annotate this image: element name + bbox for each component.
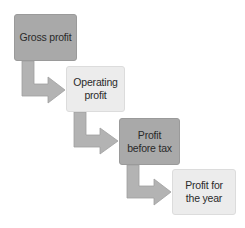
step-profit-for-the-year: Profit for the year [172, 169, 236, 215]
step-operating-profit: Operating profit [66, 66, 125, 112]
step-gross-profit: Gross profit [14, 14, 77, 61]
step-label: Operating profit [73, 76, 117, 102]
step-label: Profit for the year [185, 179, 223, 205]
elbow-arrow-icon [22, 61, 65, 103]
step-profit-before-tax: Profit before tax [119, 118, 180, 165]
step-label: Profit before tax [127, 129, 172, 155]
elbow-arrow-icon [127, 165, 171, 205]
profit-flow-diagram: Gross profit Operating profit Profit bef… [0, 0, 245, 228]
step-label: Gross profit [20, 31, 72, 44]
elbow-arrow-icon [74, 112, 118, 154]
